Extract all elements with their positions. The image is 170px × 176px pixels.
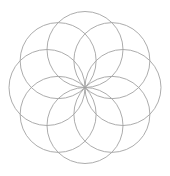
rosette-circle [74,23,150,99]
rosette-diagram [0,0,170,176]
rosette-circles [9,12,161,164]
